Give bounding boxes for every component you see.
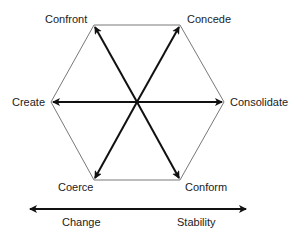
arrow-to-confront [95, 27, 137, 102]
arrow-to-conform [137, 102, 179, 178]
label-create: Create [12, 96, 45, 109]
label-coerce: Coerce [58, 181, 93, 194]
arrow-to-coerce [95, 102, 137, 178]
arrow-to-concede [137, 27, 179, 102]
label-concede: Concede [187, 13, 231, 26]
label-conform: Conform [185, 181, 227, 194]
label-stability: Stability [177, 216, 216, 229]
label-consolidate: Consolidate [230, 96, 288, 109]
label-change: Change [62, 216, 101, 229]
label-confront: Confront [45, 13, 87, 26]
hexagon-diagram [0, 0, 299, 240]
